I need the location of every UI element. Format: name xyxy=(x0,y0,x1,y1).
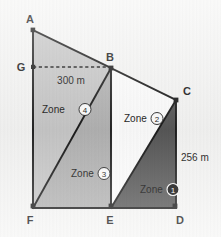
zone-diagram-figure: A B C D E F G 300 m 256 m Zone 4 Zone xyxy=(0,0,221,237)
vertex-marker-E xyxy=(109,204,114,209)
zone-1-badge-number: 1 xyxy=(171,186,176,195)
zone-3-badge-number: 3 xyxy=(102,170,107,179)
vertex-label-F: F xyxy=(27,214,34,226)
zone-2-label-text: Zone xyxy=(124,113,147,124)
dimension-256m-label: 256 m xyxy=(181,152,209,163)
vertex-marker-F xyxy=(31,204,36,209)
zone-2-badge-number: 2 xyxy=(155,115,160,124)
zone-3-label-text: Zone xyxy=(71,168,94,179)
zone-1-label-text: Zone xyxy=(140,184,163,195)
zone-2-label-group: Zone 2 xyxy=(124,113,163,125)
vertex-label-A: A xyxy=(26,13,34,25)
vertex-label-E: E xyxy=(106,214,113,226)
zone-4-label-text: Zone xyxy=(42,104,65,115)
vertex-marker-A xyxy=(31,28,36,33)
vertex-label-C: C xyxy=(183,85,191,97)
zone-1-label-group: Zone 1 xyxy=(140,184,179,196)
vertex-label-D: D xyxy=(176,214,184,226)
vertex-label-G: G xyxy=(17,61,26,73)
zone-3-label-group: Zone 3 xyxy=(71,168,110,180)
dimension-300m-label: 300 m xyxy=(57,75,85,86)
vertex-marker-G xyxy=(31,65,35,69)
vertex-marker-D xyxy=(173,204,178,209)
diagram-canvas: A B C D E F G 300 m 256 m Zone 4 Zone xyxy=(0,0,221,237)
vertex-marker-B xyxy=(109,66,114,71)
vertex-label-B: B xyxy=(106,51,114,63)
vertex-marker-C xyxy=(174,98,179,103)
zone-4-badge-number: 4 xyxy=(83,106,88,115)
